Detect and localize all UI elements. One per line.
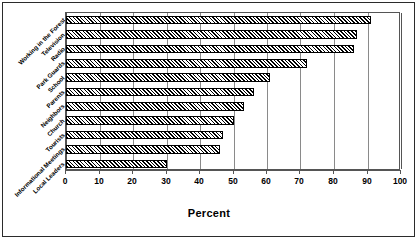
tick-label-60: 60: [253, 176, 279, 186]
chart-figure: Working in the ForestTelevisionRadioPark…: [0, 0, 418, 240]
bar-row: [66, 45, 399, 54]
bar-row: [66, 102, 399, 111]
tick-mark-90: [367, 170, 368, 174]
bar: [66, 16, 371, 25]
bar: [66, 145, 220, 154]
bar-row: [66, 160, 399, 169]
tick-mark-0: [65, 170, 66, 174]
bar: [66, 59, 307, 68]
bar: [66, 160, 167, 169]
bar-row: [66, 73, 399, 82]
tick-mark-50: [233, 170, 234, 174]
gridline-100: [401, 13, 402, 169]
tick-mark-100: [400, 170, 401, 174]
bar: [66, 45, 354, 54]
tick-label-80: 80: [320, 176, 346, 186]
tick-mark-30: [166, 170, 167, 174]
bar-row: [66, 59, 399, 68]
bar-row: [66, 16, 399, 25]
tick-mark-20: [132, 170, 133, 174]
tick-label-70: 70: [286, 176, 312, 186]
bar-row: [66, 145, 399, 154]
tick-mark-70: [299, 170, 300, 174]
plot-area: [65, 12, 400, 170]
tick-label-0: 0: [52, 176, 78, 186]
bar-row: [66, 131, 399, 140]
bar-row: [66, 88, 399, 97]
bar: [66, 30, 357, 39]
tick-mark-80: [333, 170, 334, 174]
tick-label-40: 40: [186, 176, 212, 186]
x-axis-title: Percent: [0, 207, 418, 219]
tick-label-90: 90: [354, 176, 380, 186]
bar: [66, 116, 234, 125]
tick-label-20: 20: [119, 176, 145, 186]
bar: [66, 102, 244, 111]
bar: [66, 73, 270, 82]
tick-label-10: 10: [86, 176, 112, 186]
tick-label-30: 30: [153, 176, 179, 186]
tick-label-50: 50: [220, 176, 246, 186]
tick-mark-40: [199, 170, 200, 174]
bar-series: [66, 13, 399, 169]
tick-mark-60: [266, 170, 267, 174]
tick-mark-10: [99, 170, 100, 174]
tick-label-100: 100: [387, 176, 413, 186]
bar: [66, 131, 223, 140]
y-axis-category-labels: Working in the ForestTelevisionRadioPark…: [0, 0, 66, 175]
bar: [66, 88, 254, 97]
bar-row: [66, 116, 399, 125]
bar-row: [66, 30, 399, 39]
